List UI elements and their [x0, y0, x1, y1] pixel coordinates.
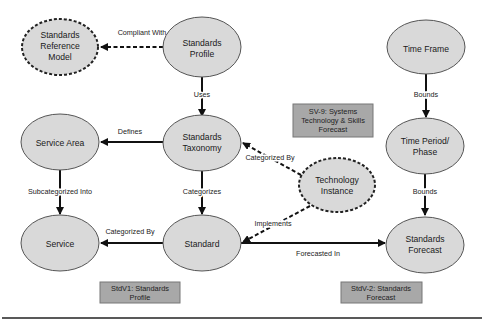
svg-text:Standards: Standards [182, 132, 221, 142]
node-standard: Standard [163, 215, 241, 271]
edge-label-compliant-with: Compliant With [118, 28, 167, 37]
node-time-frame: Time Frame [387, 20, 465, 74]
edge-label-bounds-2: Bounds [413, 187, 438, 196]
node-time-period-phase: Time Period/ Phase [386, 118, 464, 174]
edge-implements: Implements [243, 206, 310, 242]
svg-text:Service: Service [46, 239, 75, 249]
edge-categorized-by-service: Categorized By [101, 227, 163, 243]
svg-text:Time Frame: Time Frame [403, 44, 449, 54]
svg-text:Model: Model [48, 52, 71, 62]
node-standards-profile: Standards Profile [163, 17, 241, 77]
svg-text:Profile: Profile [190, 49, 215, 59]
node-standards-forecast: Standards Forecast [386, 217, 464, 273]
svg-text:Forecast: Forecast [408, 245, 442, 255]
svg-text:SV-9: Systems: SV-9: Systems [309, 107, 358, 116]
edge-label-categorized-by-service: Categorized By [105, 227, 155, 236]
svg-text:Technology & Skills: Technology & Skills [301, 116, 365, 125]
svg-text:Technology: Technology [315, 175, 359, 185]
svg-text:Standards: Standards [405, 234, 444, 244]
edge-label-defines: Defines [118, 127, 143, 136]
edge-forecasted-in: Forecasted In [241, 243, 385, 258]
edge-label-bounds-1: Bounds [414, 90, 439, 99]
view-box-stdv1: StdV1: Standards Profile [100, 282, 180, 303]
svg-text:Forecast: Forecast [367, 293, 396, 302]
edge-label-subcategorized-into: Subcategorized Into [28, 187, 92, 196]
node-standards-reference-model: Standards Reference Model [22, 19, 98, 75]
svg-text:Profile: Profile [130, 293, 151, 302]
edge-bounds-time-frame: Bounds [414, 74, 439, 117]
svg-text:Standards: Standards [40, 30, 79, 40]
edge-bounds-time-period: Bounds [413, 174, 438, 215]
svg-text:Reference: Reference [40, 41, 80, 51]
edge-label-categorized-by-taxonomy: Categorized By [245, 153, 295, 162]
node-technology-instance: Technology Instance [299, 158, 375, 212]
edge-categorized-by-taxonomy: Categorized By [243, 143, 301, 175]
edge-defines: Defines [101, 127, 163, 142]
edge-label-forecasted-in: Forecasted In [296, 249, 340, 258]
svg-text:Standards: Standards [182, 38, 221, 48]
node-standards-taxonomy: Standards Taxonomy [163, 115, 241, 171]
view-box-stdv2: StdV-2: Standards Forecast [341, 282, 422, 303]
svg-text:Forecast: Forecast [319, 125, 348, 134]
svg-text:Service Area: Service Area [36, 138, 85, 148]
svg-text:Instance: Instance [321, 186, 354, 196]
svg-text:Standard: Standard [185, 239, 220, 249]
edge-uses: Uses [194, 77, 211, 116]
svg-text:Phase: Phase [413, 147, 438, 157]
edge-subcategorized-into: Subcategorized Into [28, 170, 92, 214]
svg-text:StdV1: Standards: StdV1: Standards [111, 284, 169, 293]
edge-compliant-with: Compliant With [101, 28, 166, 47]
svg-text:Time Period/: Time Period/ [401, 136, 450, 146]
node-service-area: Service Area [21, 114, 99, 170]
view-box-sv9: SV-9: Systems Technology & Skills Foreca… [293, 104, 373, 137]
edge-label-categorizes: Categorizes [183, 187, 222, 196]
node-service: Service [21, 215, 99, 271]
standards-viewpoint-diagram: Compliant With Uses Bounds Defines Subca… [0, 0, 484, 323]
svg-text:StdV-2: Standards: StdV-2: Standards [351, 284, 411, 293]
edge-categorizes: Categorizes [183, 170, 222, 214]
svg-text:Taxonomy: Taxonomy [182, 143, 222, 153]
edge-label-uses: Uses [194, 90, 211, 99]
edge-label-implements: Implements [254, 219, 292, 228]
